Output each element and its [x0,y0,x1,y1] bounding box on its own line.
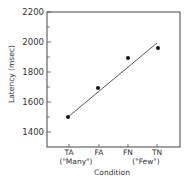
y-tick-1800: 1800 [22,67,44,77]
data-point-tn [156,46,160,50]
data-points [66,46,160,119]
x-sublabel-many: ("Many") [59,157,92,166]
chart: 2200 2000 1800 1600 1400 Latency (msec) … [0,0,190,182]
y-tick-2200: 2200 [22,7,44,17]
y-axis-ticks [47,12,51,132]
x-tick-tn: TN [151,148,162,157]
x-tick-ta: TA [63,148,74,157]
y-axis-label: Latency (msec) [7,45,16,103]
x-tick-fn: FN [123,148,133,157]
data-point-fa [96,86,100,90]
data-point-ta [66,115,70,119]
x-axis-label: Condition [94,168,130,177]
x-sublabel-few: ("Few") [132,157,159,166]
y-tick-2000: 2000 [22,37,44,47]
regression-line [68,43,157,117]
x-tick-fa: FA [95,148,105,157]
data-point-fn [126,56,130,60]
y-tick-1400: 1400 [22,127,44,137]
y-tick-1600: 1600 [22,97,44,107]
x-tick-labels: TA FA FN TN ("Many") ("Few") [59,148,162,166]
y-tick-labels: 2200 2000 1800 1600 1400 [22,7,44,137]
